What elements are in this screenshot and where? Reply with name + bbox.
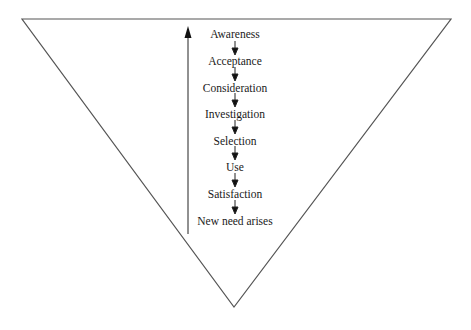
stage-use: Use bbox=[185, 160, 285, 174]
stage-selection: Selection bbox=[185, 134, 285, 148]
stage-consideration: Consideration bbox=[185, 81, 285, 95]
stage-investigation: Investigation bbox=[185, 107, 285, 121]
stage-new-need-arises: New need arises bbox=[185, 214, 285, 228]
stage-satisfaction: Satisfaction bbox=[185, 187, 285, 201]
stage-acceptance: Acceptance bbox=[185, 54, 285, 68]
stage-awareness: Awareness bbox=[185, 27, 285, 41]
